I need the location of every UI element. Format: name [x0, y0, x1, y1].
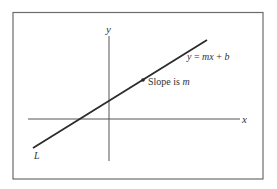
y-axis-label: y: [105, 23, 111, 35]
slope-point: [141, 78, 145, 82]
equation-b: b: [224, 51, 229, 62]
slope-label-var: m: [182, 76, 189, 87]
equation-eq: =: [191, 51, 202, 62]
slope-label-text: Slope is: [148, 76, 182, 87]
x-axis-label: x: [241, 113, 247, 125]
slope-label: Slope is m: [148, 76, 190, 87]
line-l: [33, 40, 207, 148]
line-diagram: x y Slope is m y = mx + b L: [0, 0, 277, 189]
line-label: L: [33, 150, 40, 161]
figure-frame: [13, 13, 263, 180]
equation-label: y = mx + b: [186, 51, 229, 62]
equation-m: m: [202, 51, 209, 62]
equation-plus: +: [214, 51, 225, 62]
